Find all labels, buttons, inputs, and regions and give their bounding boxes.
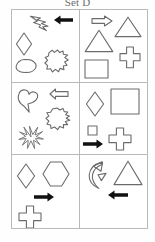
cross-icon [119,46,141,69]
diamond-icon [85,91,105,117]
puzzle-cell-top-right[interactable] [80,10,148,83]
diamond-icon [15,32,33,56]
right-arrow-icon [33,192,55,202]
right-arrow-icon [82,139,104,149]
puzzle-cell-middle-left[interactable] [12,83,80,156]
left-arrow-outline-icon [49,88,69,100]
jagged-blob-icon [45,107,71,132]
puzzle-cell-bottom-right[interactable] [80,155,148,228]
starburst-icon [18,124,44,150]
jagged-blob-icon [44,49,70,74]
puzzle-page: Set D [0,0,155,242]
crescent-arrow-icon [85,160,111,190]
left-arrow-icon [107,190,129,200]
square-icon [110,88,140,115]
heart-blob-icon [15,88,41,114]
page-title: Set D [0,0,155,6]
puzzle-cell-top-left[interactable] [12,10,80,83]
right-arrow-outline-icon [91,15,113,27]
puzzle-grid [11,9,148,229]
left-arrow-icon [54,15,74,25]
triangle-icon [113,160,143,186]
cross-icon [18,205,42,228]
triangle-icon [114,16,142,38]
triangle-icon [84,29,114,53]
cloud-blob-icon [14,58,38,74]
puzzle-cell-middle-right[interactable] [80,83,148,156]
puzzle-cell-bottom-left[interactable] [12,155,80,228]
cross-icon [108,127,132,151]
square-icon [84,59,109,79]
diamond-icon [16,163,36,189]
hexagon-icon [42,161,70,187]
small-square-icon [87,125,98,136]
